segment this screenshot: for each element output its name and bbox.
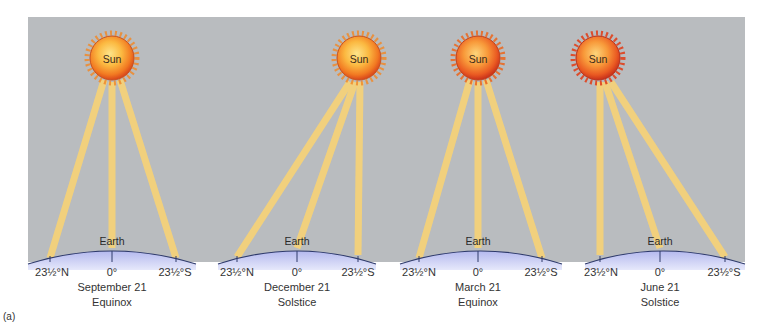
latitude-label-equator: 0° <box>655 266 666 278</box>
panel-date: March 21 <box>455 281 501 293</box>
sun-rays-beams <box>419 80 542 258</box>
latitude-label-equator: 0° <box>107 266 118 278</box>
earth-label: Earth <box>465 235 490 247</box>
earth-label: Earth <box>99 235 124 247</box>
latitude-label-south: 23½°S <box>158 266 191 278</box>
sun-label: Sun <box>469 53 488 65</box>
figure-part-label: (a) <box>3 311 15 322</box>
latitude-label-equator: 0° <box>292 266 303 278</box>
panel-event: Solstice <box>641 296 680 308</box>
sun-label: Sun <box>103 53 122 65</box>
sun-rays-beams <box>237 82 360 257</box>
sun-rays-beams <box>50 80 176 258</box>
sun-rays-beams <box>600 82 725 257</box>
latitude-label-south: 23½°S <box>341 266 374 278</box>
earth-label: Earth <box>284 235 309 247</box>
panel-date: June 21 <box>640 281 679 293</box>
panel-date: December 21 <box>264 281 330 293</box>
panel-event: Equinox <box>458 296 498 308</box>
latitude-label-north: 23½°N <box>402 266 436 278</box>
earth-label: Earth <box>647 235 672 247</box>
latitude-label-north: 23½°N <box>220 266 254 278</box>
sun-label: Sun <box>589 53 608 65</box>
sun-label: Sun <box>350 53 369 65</box>
latitude-label-north: 23½°N <box>35 266 69 278</box>
panel-event: Solstice <box>278 296 317 308</box>
latitude-label-south: 23½°S <box>707 266 740 278</box>
latitude-label-north: 23½°N <box>584 266 618 278</box>
latitude-label-south: 23½°S <box>524 266 557 278</box>
panel-event: Equinox <box>92 296 132 308</box>
diagram-canvas <box>0 0 769 328</box>
latitude-label-equator: 0° <box>473 266 484 278</box>
panel-date: September 21 <box>77 281 146 293</box>
